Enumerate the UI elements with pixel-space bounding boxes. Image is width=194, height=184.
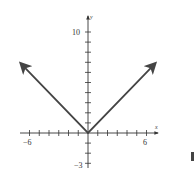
y-tick-label-neg3: −3: [74, 161, 83, 170]
y-tick-label-10: 10: [72, 28, 80, 37]
plot-area: x y −6 6 10 −3: [0, 0, 194, 184]
x-tick-label-6: 6: [143, 138, 147, 147]
edge-mark: [191, 152, 194, 161]
y-axis-label: y: [89, 14, 93, 20]
x-axis-label: x: [154, 124, 158, 130]
x-tick-label-neg6: −6: [23, 138, 32, 147]
